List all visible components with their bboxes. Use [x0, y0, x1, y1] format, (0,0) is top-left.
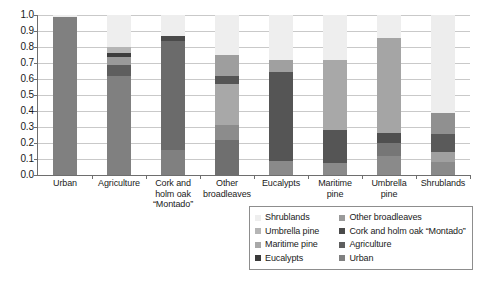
legend-item-maritime-pine[interactable]: Maritime pine: [255, 238, 339, 251]
bar-segment[interactable]: [107, 47, 131, 53]
bar-segment[interactable]: [377, 38, 401, 132]
bar-other-broadleaves[interactable]: [215, 15, 239, 175]
bar-segment[interactable]: [161, 41, 185, 151]
legend-swatch-icon: [339, 215, 345, 221]
bar-segment[interactable]: [323, 130, 347, 163]
bar-segment[interactable]: [431, 113, 455, 135]
legend-swatch-icon: [255, 228, 261, 234]
x-tick-label-line: Agriculture: [88, 178, 150, 189]
bar-segment[interactable]: [53, 15, 77, 17]
bar-segment[interactable]: [107, 57, 131, 65]
legend-label: Other broadleaves: [349, 213, 421, 222]
x-tick-label: Eucalypts: [250, 178, 312, 189]
x-tick-label-line: Cork and: [142, 178, 204, 189]
y-tick-label: 0.2: [8, 138, 34, 148]
x-tick-label-line: pine: [358, 189, 420, 200]
x-tick-label: Shrublands: [412, 178, 474, 189]
legend-swatch-icon: [255, 242, 261, 248]
legend-item-shrublands[interactable]: Shrublands: [255, 211, 339, 224]
x-tick-label: Maritimepine: [304, 178, 366, 199]
legend-item-other-broadleaves[interactable]: Other broadleaves: [339, 211, 467, 224]
legend-swatch-icon: [339, 228, 345, 234]
x-tick-label-line: pine: [304, 189, 366, 200]
legend-column: Other broadleavesCork and holm oak “Mont…: [339, 211, 467, 265]
legend-swatch-icon: [339, 255, 345, 261]
chart-legend: ShrublandsUmbrella pineMaritime pineEuca…: [249, 206, 473, 270]
bar-segment[interactable]: [215, 125, 239, 139]
x-tick-label: Urban: [34, 178, 96, 189]
x-tick-label: Agriculture: [88, 178, 150, 189]
bar-segment[interactable]: [431, 152, 455, 162]
bar-segment[interactable]: [161, 36, 185, 41]
bar-segment[interactable]: [107, 65, 131, 75]
bar-segment[interactable]: [215, 140, 239, 175]
x-tick-label: Otherbroadleaves: [196, 178, 258, 199]
bar-segment[interactable]: [161, 15, 185, 36]
bar-agriculture[interactable]: [107, 15, 131, 175]
bar-segment[interactable]: [431, 134, 455, 152]
legend-label: Shrublands: [265, 213, 310, 222]
legend-item-umbrella-pine[interactable]: Umbrella pine: [255, 225, 339, 238]
x-tick-label: Umbrellapine: [358, 178, 420, 199]
legend-label: Urban: [349, 254, 373, 263]
legend-item-urban[interactable]: Urban: [339, 252, 467, 265]
bar-urban[interactable]: [53, 15, 77, 175]
legend-swatch-icon: [339, 242, 345, 248]
bar-segment[interactable]: [107, 53, 131, 57]
x-tick-label-line: Shrublands: [412, 178, 474, 189]
legend-label: Umbrella pine: [265, 227, 319, 236]
legend-label: Maritime pine: [265, 240, 318, 249]
bar-segment[interactable]: [269, 15, 293, 60]
x-tick-label-line: Other: [196, 178, 258, 189]
plot-area: 1.00.90.80.70.60.50.40.30.20.10.0 UrbanA…: [0, 0, 480, 200]
bar-segment[interactable]: [269, 161, 293, 175]
bar-segment[interactable]: [323, 163, 347, 175]
y-tick-label: 1.0: [8, 10, 34, 20]
x-tick-label-line: Eucalypts: [250, 178, 312, 189]
bar-segment[interactable]: [431, 162, 455, 175]
bar-eucalypts[interactable]: [269, 15, 293, 175]
y-tick-label: 0.5: [8, 90, 34, 100]
y-tick-label: 0.6: [8, 74, 34, 84]
x-tick-label-line: Urban: [34, 178, 96, 189]
legend-item-cork-and-holm-oak-montado[interactable]: Cork and holm oak “Montado”: [339, 225, 467, 238]
legend-label: Agriculture: [349, 240, 391, 249]
legend-swatch-icon: [255, 215, 261, 221]
legend-column: ShrublandsUmbrella pineMaritime pineEuca…: [255, 211, 339, 265]
bar-segment[interactable]: [323, 15, 347, 60]
bar-segment[interactable]: [53, 17, 77, 175]
x-tick-label-line: broadleaves: [196, 189, 258, 200]
bar-cork-and-holm-oak-montado[interactable]: [161, 15, 185, 175]
bar-shrublands[interactable]: [431, 15, 455, 175]
bar-segment[interactable]: [269, 60, 293, 72]
bar-segment[interactable]: [107, 15, 131, 47]
x-tick-label-line: Umbrella: [358, 178, 420, 189]
bar-segment[interactable]: [161, 150, 185, 175]
bar-segment[interactable]: [107, 76, 131, 175]
bar-segment[interactable]: [215, 84, 239, 126]
y-tick-label: 0.0: [8, 170, 34, 180]
legend-item-eucalypts[interactable]: Eucalypts: [255, 252, 339, 265]
bar-segment[interactable]: [215, 15, 239, 55]
legend-label: Eucalypts: [265, 254, 303, 263]
legend-columns: ShrublandsUmbrella pineMaritime pineEuca…: [255, 211, 467, 265]
bar-segment[interactable]: [323, 60, 347, 130]
bar-umbrella-pine[interactable]: [377, 15, 401, 175]
bar-segment[interactable]: [377, 143, 401, 156]
bars-layer: [38, 15, 470, 175]
bar-segment[interactable]: [431, 15, 455, 113]
legend-label: Cork and holm oak “Montado”: [349, 227, 465, 236]
y-tick-label: 0.8: [8, 42, 34, 52]
bar-segment[interactable]: [215, 55, 239, 76]
legend-item-agriculture[interactable]: Agriculture: [339, 238, 467, 251]
bar-segment[interactable]: [215, 76, 239, 84]
bar-segment[interactable]: [269, 72, 293, 161]
x-tick-label-line: holm oak: [142, 189, 204, 200]
bar-segment[interactable]: [377, 15, 401, 38]
bar-maritime-pine[interactable]: [323, 15, 347, 175]
bar-segment[interactable]: [377, 156, 401, 175]
x-tick-label: Cork andholm oak“Montado”: [142, 178, 204, 210]
legend-swatch-icon: [255, 255, 261, 261]
x-tick-label-line: “Montado”: [142, 199, 204, 210]
bar-segment[interactable]: [377, 133, 401, 143]
